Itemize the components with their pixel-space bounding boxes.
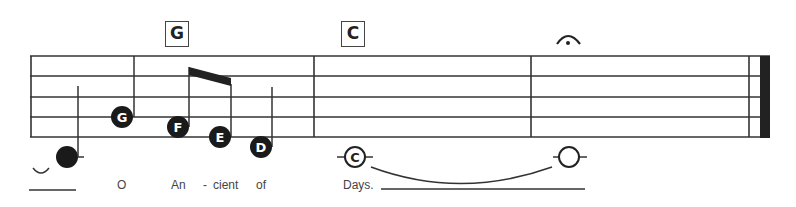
lyric-days: Days. bbox=[343, 178, 374, 192]
lyric-o: O bbox=[117, 178, 126, 192]
note-tied-half bbox=[559, 147, 579, 167]
svg-text:E: E bbox=[216, 130, 225, 145]
chord-symbol-g: G bbox=[165, 21, 189, 47]
lyric-cient: cient bbox=[213, 178, 238, 192]
svg-text:C: C bbox=[350, 150, 360, 165]
tie bbox=[371, 167, 552, 184]
lyric-hyphen: - bbox=[203, 178, 207, 192]
staff-lines bbox=[30, 56, 770, 137]
svg-text:F: F bbox=[174, 120, 183, 135]
lyric-of: of bbox=[256, 178, 266, 192]
svg-text:D: D bbox=[256, 140, 267, 155]
beam bbox=[189, 67, 231, 86]
breath-mark-icon bbox=[33, 168, 49, 173]
lyric-an: An bbox=[171, 178, 186, 192]
svg-text:G: G bbox=[117, 110, 128, 125]
final-barline bbox=[760, 56, 770, 138]
music-staff: G F E D C bbox=[0, 0, 796, 207]
note-pickup bbox=[56, 146, 78, 168]
chord-symbol-c: C bbox=[341, 21, 365, 47]
